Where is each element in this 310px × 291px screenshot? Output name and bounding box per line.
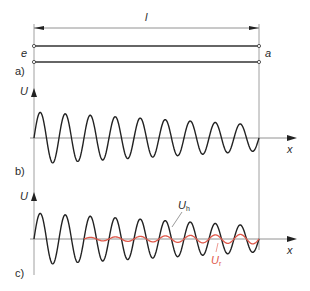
output-end-label: a xyxy=(265,48,271,59)
panel-b-label: b) xyxy=(15,166,25,177)
forward-wave-label: Uh xyxy=(178,200,190,212)
panel-a-label: a) xyxy=(15,66,25,77)
terminal-a-top xyxy=(257,44,260,47)
x-axis-arrow-icon xyxy=(287,236,297,242)
reflected-wave-subscript: r xyxy=(219,260,221,267)
dimension-line xyxy=(34,26,259,30)
panel-c-axes xyxy=(30,192,297,264)
arrow-right-icon xyxy=(249,26,259,30)
y-axis-arrow-icon xyxy=(31,192,37,201)
x-axis-arrow-icon xyxy=(287,135,297,141)
panel-b-x-label: x xyxy=(287,144,293,155)
forward-wave-subscript: h xyxy=(186,205,190,212)
input-end-label: e xyxy=(21,48,27,59)
forward-wave-leader xyxy=(172,212,182,227)
reflected-wave-label: Ur xyxy=(211,255,221,267)
reflected-wave-symbol: U xyxy=(211,254,219,266)
panel-c-x-label: x xyxy=(287,245,293,256)
terminal-e-bottom xyxy=(32,60,35,63)
diagram-canvas xyxy=(0,0,310,291)
panel-c-label: c) xyxy=(15,268,24,279)
transmission-line xyxy=(32,44,260,63)
panel-b-axes xyxy=(30,88,297,163)
terminal-e-top xyxy=(32,44,35,47)
length-label: l xyxy=(145,12,147,23)
arrow-left-icon xyxy=(34,26,44,30)
panel-c-y-label: U xyxy=(20,191,28,202)
forward-wave-symbol: U xyxy=(178,199,186,211)
y-axis-arrow-icon xyxy=(31,88,37,97)
reflected-wave-leader xyxy=(216,243,218,252)
panel-b-y-label: U xyxy=(20,86,28,97)
terminal-a-bottom xyxy=(257,60,260,63)
